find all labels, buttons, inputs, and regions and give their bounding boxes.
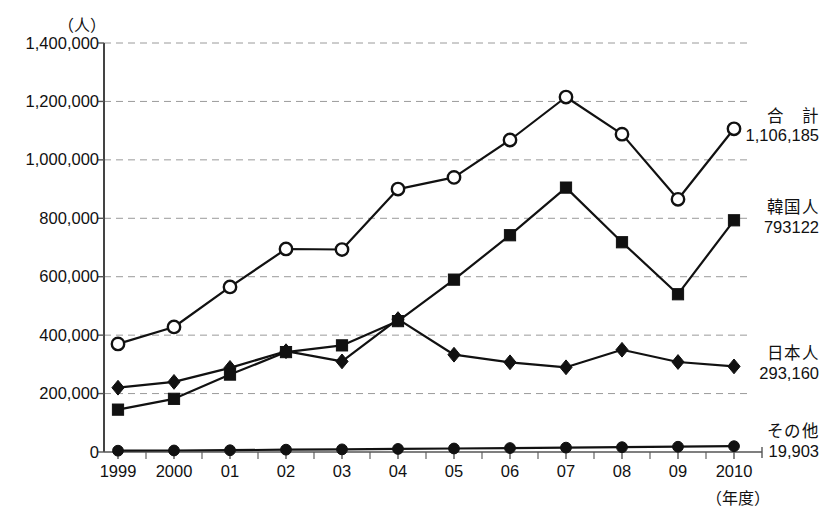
chart-container: （人） 0200,000400,000600,000800,0001,000,0… [0,0,825,523]
series-annotation: その他19,903 [767,422,820,461]
x-axis-tick-label: 2000 [156,463,193,480]
data-point [560,360,572,375]
data-point [616,128,628,140]
data-point [168,321,180,333]
data-point [504,134,516,146]
x-axis-tick-label: 03 [333,463,351,480]
series-1 [112,182,739,415]
series-end-value: 293,160 [759,364,819,383]
data-point [336,243,348,255]
data-point [728,215,739,226]
x-axis-tick-label: 02 [277,463,295,480]
data-point [673,441,684,452]
data-point [672,355,684,370]
y-axis-tick-label: 0 [3,444,99,461]
y-axis-tick-label: 1,200,000 [3,93,99,110]
data-point [560,182,571,193]
y-axis-tick-label: 400,000 [3,327,99,344]
data-point [169,445,180,456]
data-point [617,442,628,453]
x-axis-tick-label: 1999 [100,463,137,480]
data-point [112,404,123,415]
x-axis-unit-label: （年度） [706,491,770,507]
x-axis-tick-label: 09 [669,463,687,480]
data-point [168,375,180,390]
data-point [560,91,572,103]
x-axis-tick-label: 01 [221,463,239,480]
data-point [448,274,459,285]
series-end-value: 793122 [764,218,819,237]
data-point [392,316,403,327]
series-annotation: 日本人293,160 [759,344,819,383]
data-point [616,342,628,357]
data-point [337,444,348,455]
y-axis-tick-label: 200,000 [3,385,99,402]
y-axis-tick-labels: 0200,000400,000600,000800,0001,000,0001,… [0,0,99,523]
x-axis-tick-label: 06 [501,463,519,480]
series-annotation: 韓国人793122 [764,198,819,237]
data-point [224,281,236,293]
data-point [112,380,124,395]
x-axis-tick-label: 07 [557,463,575,480]
series-annotation: 合 計1,106,185 [746,107,819,146]
x-axis-tick-label: 05 [445,463,463,480]
plot-area [0,0,825,523]
series-name: 日本人 [759,344,819,363]
data-point [393,444,404,455]
series-line [118,319,734,388]
data-point [281,444,292,455]
data-point [616,237,627,248]
data-point [728,359,740,374]
data-point [672,193,684,205]
series-line [118,446,734,451]
x-axis-tick-label: 2010 [716,463,753,480]
data-point [728,123,740,135]
data-point [448,347,460,362]
y-axis-tick-label: 1,400,000 [3,35,99,52]
data-point [505,443,516,454]
data-point [168,393,179,404]
data-point [504,355,516,370]
data-point [336,354,348,369]
data-point [448,171,460,183]
x-axis-tick-label: 04 [389,463,407,480]
data-point [225,445,236,456]
data-point [449,443,460,454]
data-point [113,445,124,456]
data-point [336,340,347,351]
data-point [224,369,235,380]
series-name: 韓国人 [764,198,819,217]
data-point [112,338,124,350]
data-point [280,243,292,255]
data-point [672,289,683,300]
data-point [561,442,572,453]
series-line [118,97,734,344]
series-2 [112,312,740,395]
data-point [392,183,404,195]
series-name: 合 計 [746,107,819,126]
series-name: その他 [767,422,820,441]
y-axis-tick-label: 600,000 [3,268,99,285]
x-axis-tick-label: 08 [613,463,631,480]
y-axis-tick-label: 800,000 [3,210,99,227]
data-point [280,346,291,357]
data-point [504,230,515,241]
data-point [729,441,740,452]
y-axis-tick-label: 1,000,000 [3,151,99,168]
series-end-value: 19,903 [767,442,820,461]
series-0 [112,91,740,350]
series-line [118,188,734,410]
series-end-value: 1,106,185 [746,126,819,145]
